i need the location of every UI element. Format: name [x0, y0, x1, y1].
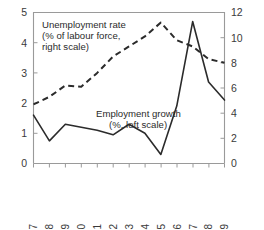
employment-growth-annotation: Employment growth (%, left scale) [96, 108, 181, 130]
x-axis-tick-label-2006: 2006 [172, 224, 183, 230]
x-axis-tick-label-2009: 2009 [219, 224, 230, 230]
employment-annotation-line-1: Employment growth [96, 108, 181, 119]
employment-unemployment-line-chart: 5 4 3 2 1 0 12 10 8 6 4 2 0 [0, 0, 264, 230]
left-axis-tick-label-5: 5 [21, 6, 27, 18]
x-axis-tick-label-2007: 2007 [188, 224, 199, 230]
x-axis-tick-label-1998: 1998 [44, 224, 55, 230]
right-axis-tick-label-6: 6 [231, 82, 237, 94]
right-axis-tick-label-2: 2 [231, 132, 237, 144]
unemployment-rate-annotation: Unemployment rate (% of labour force, ri… [42, 19, 126, 52]
chart-container: 5 4 3 2 1 0 12 10 8 6 4 2 0 [0, 0, 264, 230]
x-axis-tick-label-2002: 2002 [108, 224, 119, 230]
x-axis-tick-label-2003: 2003 [124, 224, 135, 230]
x-axis-tick-labels: 1997 1998 1999 2000 2001 2002 2003 2004 … [28, 224, 230, 230]
x-axis-tick-label-2008: 2008 [203, 224, 214, 230]
x-axis-tick-label-2000: 2000 [76, 224, 87, 230]
left-axis-tick-label-4: 4 [21, 37, 27, 49]
right-axis-tick-label-8: 8 [231, 57, 237, 69]
left-axis-tick-label-3: 3 [21, 67, 27, 79]
right-axis-tick-label-10: 10 [231, 32, 243, 44]
x-axis-tick-label-2001: 2001 [92, 224, 103, 230]
right-axis-tick-label-0: 0 [231, 157, 237, 169]
unemployment-annotation-line-2: (% of labour force, [42, 30, 120, 41]
x-axis-tick-label-1997: 1997 [28, 224, 39, 230]
left-axis-ticks: 5 4 3 2 1 0 [21, 6, 37, 169]
x-axis-tick-label-2005: 2005 [156, 224, 167, 230]
unemployment-annotation-line-3: right scale) [42, 41, 89, 52]
x-axis-tick-label-1999: 1999 [60, 224, 71, 230]
left-axis-tick-label-0: 0 [21, 157, 27, 169]
right-axis-tick-label-4: 4 [231, 107, 237, 119]
right-axis-ticks: 12 10 8 6 4 2 0 [221, 6, 243, 169]
right-axis-tick-label-12: 12 [231, 6, 243, 18]
employment-annotation-line-2: (%, left scale) [109, 119, 167, 130]
x-axis-tick-label-2004: 2004 [140, 224, 151, 230]
left-axis-tick-label-2: 2 [21, 97, 27, 109]
left-axis-tick-label-1: 1 [21, 127, 27, 139]
unemployment-annotation-line-1: Unemployment rate [42, 19, 126, 30]
x-axis-ticks [34, 164, 225, 168]
